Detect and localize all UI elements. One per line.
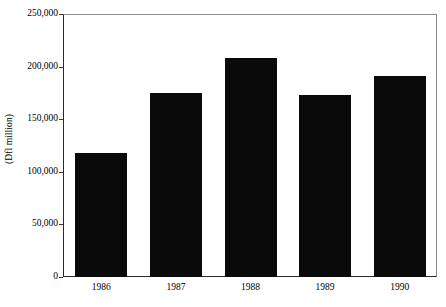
x-axis-tick-label: 1987 bbox=[139, 283, 214, 293]
bar[interactable] bbox=[75, 153, 127, 277]
bar-chart: (Dfl million) 050,000100,000150,000200,0… bbox=[0, 0, 446, 307]
bar[interactable] bbox=[299, 95, 351, 277]
x-axis-tick-label: 1989 bbox=[288, 283, 363, 293]
y-axis-tick-label: 200,000 bbox=[6, 62, 58, 72]
y-axis-tick-label: 100,000 bbox=[6, 167, 58, 177]
bar[interactable] bbox=[374, 76, 426, 277]
x-axis-tick-label: 1988 bbox=[213, 283, 288, 293]
y-axis-tick-label: 0 bbox=[6, 272, 58, 282]
x-axis-tick-label: 1990 bbox=[362, 283, 437, 293]
x-axis-tick-label: 1986 bbox=[64, 283, 139, 293]
bar[interactable] bbox=[225, 58, 277, 277]
bar[interactable] bbox=[150, 93, 202, 277]
y-axis-tick-label: 150,000 bbox=[6, 114, 58, 124]
y-axis-tick-labels: 050,000100,000150,000200,000250,000 bbox=[6, 0, 58, 307]
x-axis-tick-labels: 19861987198819891990 bbox=[64, 283, 437, 303]
bars-container bbox=[64, 14, 437, 277]
y-axis-tick-label: 250,000 bbox=[6, 9, 58, 19]
y-axis-tick-label: 50,000 bbox=[6, 220, 58, 230]
y-axis-tick-mark bbox=[59, 277, 63, 278]
